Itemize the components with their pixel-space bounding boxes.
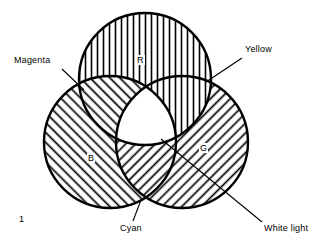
circle-label-green: G bbox=[199, 143, 208, 153]
circle-label-blue: B bbox=[87, 153, 95, 163]
callout-label-magenta: Magenta bbox=[13, 55, 51, 65]
callout-label-white-light: White light bbox=[263, 223, 309, 233]
circle-label-red: R bbox=[136, 55, 145, 65]
figure-number: 1 bbox=[19, 214, 24, 224]
callout-label-yellow: Yellow bbox=[244, 44, 273, 54]
figure-container: Magenta Yellow Cyan White light R B G 1 bbox=[0, 0, 321, 248]
venn-diagram-svg bbox=[0, 0, 321, 248]
callout-label-cyan: Cyan bbox=[119, 223, 143, 233]
